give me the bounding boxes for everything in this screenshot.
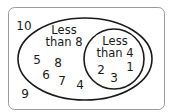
element-7: 7 xyxy=(58,75,66,87)
set-label-less-than-8: Less than 8 xyxy=(45,24,82,48)
element-10: 10 xyxy=(16,20,31,32)
venn-diagram: 10 9 Less than 8 5 8 6 7 4 Less than 4 2… xyxy=(0,0,172,112)
element-2: 2 xyxy=(97,64,105,76)
set-label-less-than-4: Less than 4 xyxy=(96,35,133,59)
element-1: 1 xyxy=(126,61,134,73)
element-6: 6 xyxy=(42,69,50,81)
element-8: 8 xyxy=(54,57,62,69)
set-label-less-than-4-line2: than 4 xyxy=(96,47,133,59)
element-4: 4 xyxy=(76,79,84,91)
element-9: 9 xyxy=(21,88,29,100)
universal-set-frame xyxy=(9,8,165,110)
element-3: 3 xyxy=(110,72,118,84)
set-label-less-than-8-line2: than 8 xyxy=(45,36,82,48)
element-5: 5 xyxy=(33,54,41,66)
